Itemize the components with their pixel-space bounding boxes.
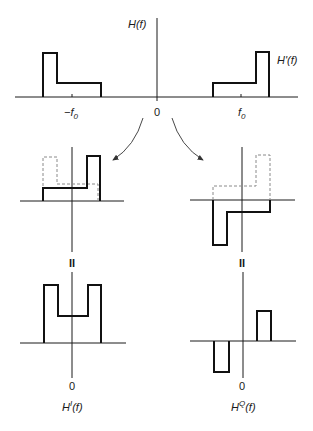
diagram-canvas: H(f) H'(f) −f0 0 f0 II II 0 0 HI(f) HQ(f… [0,0,313,431]
zero-label: 0 [154,106,160,118]
h-prime-label: H'(f) [277,54,298,66]
equals-sign-right: II [239,257,245,269]
top-spectrum-plot [15,18,298,101]
bottom-left-zero-label: 0 [69,380,75,392]
middle-right-plot [190,147,295,252]
equals-sign-left: II [69,257,75,269]
negative-frequency-band [43,53,101,97]
pos-f0-label: f0 [238,106,246,121]
positive-frequency-band [213,52,269,97]
quadrature-positive-pulse [257,311,271,341]
bottom-right-plot [190,272,296,378]
bottom-left-plot [20,272,126,378]
h-i-label: HI(f) [62,399,83,413]
h-of-f-label: H(f) [128,18,147,30]
arrow-left-icon [113,118,143,160]
shifted-copy-dashed [43,157,98,201]
bottom-right-zero-label: 0 [239,380,245,392]
arrow-right-icon [172,118,203,160]
middle-left-plot [20,147,124,252]
neg-f0-label: −f0 [64,106,78,121]
quadrature-negative-pulse [214,341,229,372]
h-q-label: HQ(f) [231,399,256,413]
